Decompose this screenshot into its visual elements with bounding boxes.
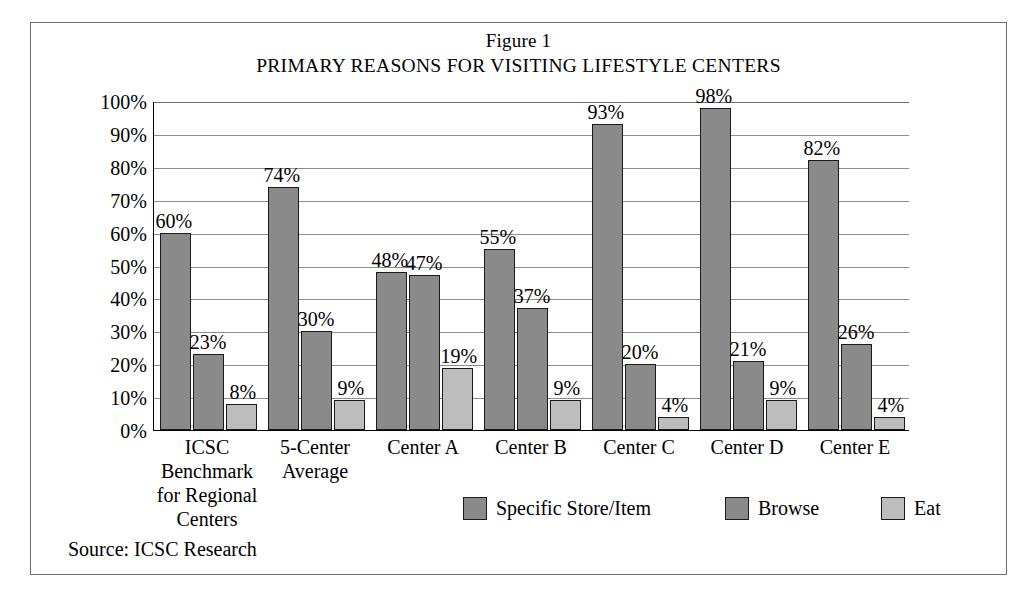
bar-value-label: 23% <box>190 332 227 353</box>
legend-item[interactable]: Specific Store/Item <box>463 497 651 520</box>
bar[interactable]: 21% <box>733 361 764 430</box>
bar[interactable]: 37% <box>517 308 548 430</box>
y-axis-tick-label: 50% <box>71 257 147 277</box>
bar[interactable]: 20% <box>625 364 656 430</box>
bar[interactable]: 47% <box>409 275 440 430</box>
bar[interactable]: 23% <box>193 354 224 430</box>
bar[interactable]: 26% <box>841 344 872 430</box>
title-block: Figure 1 PRIMARY REASONS FOR VISITING LI… <box>31 29 1006 78</box>
bar[interactable]: 74% <box>268 187 299 430</box>
bar[interactable]: 98% <box>700 108 731 430</box>
bar[interactable]: 4% <box>874 417 905 430</box>
figure-title: PRIMARY REASONS FOR VISITING LIFESTYLE C… <box>31 53 1006 78</box>
x-axis-category-label: ICSC Benchmark for Regional Centers <box>153 435 261 531</box>
plot-area: 60%23%8%74%30%9%48%47%19%55%37%9%93%20%4… <box>153 102 909 431</box>
legend-item[interactable]: Browse <box>725 497 819 520</box>
bar[interactable]: 55% <box>484 249 515 430</box>
legend-label: Browse <box>758 497 819 519</box>
bar-value-label: 48% <box>371 250 408 271</box>
bar-value-label: 93% <box>587 102 624 123</box>
bar[interactable]: 93% <box>592 124 623 430</box>
figure-frame: Figure 1 PRIMARY REASONS FOR VISITING LI… <box>30 22 1007 575</box>
bar-value-label: 19% <box>440 346 477 367</box>
x-axis-category-label: Center C <box>585 435 693 459</box>
bar-group: 98%21%9% <box>694 102 802 430</box>
bar-group: 48%47%19% <box>370 102 478 430</box>
y-axis-tick-label: 80% <box>71 158 147 178</box>
y-axis-tick-label: 30% <box>71 322 147 342</box>
bar-value-label: 4% <box>877 395 904 416</box>
bar-value-label: 74% <box>263 165 300 186</box>
bar[interactable]: 9% <box>334 400 365 430</box>
bar-group: 93%20%4% <box>586 102 694 430</box>
y-axis-tick-label: 90% <box>71 125 147 145</box>
bar-value-label: 55% <box>479 227 516 248</box>
x-axis-category-label: Center D <box>693 435 801 459</box>
x-axis-category-label: Center E <box>801 435 909 459</box>
y-axis-tick-label: 20% <box>71 355 147 375</box>
bar-value-label: 37% <box>514 286 551 307</box>
legend-item[interactable]: Eat <box>881 497 941 520</box>
bar-group: 55%37%9% <box>478 102 586 430</box>
bar[interactable]: 30% <box>301 331 332 430</box>
bar-value-label: 47% <box>406 253 443 274</box>
bar-value-label: 4% <box>661 395 688 416</box>
bar-value-label: 60% <box>155 211 192 232</box>
y-axis-tick-label: 0% <box>71 421 147 441</box>
bar[interactable]: 9% <box>766 400 797 430</box>
legend-label: Eat <box>914 497 941 519</box>
bar-group: 82%26%4% <box>802 102 910 430</box>
x-axis-category-label: 5-Center Average <box>261 435 369 483</box>
y-axis-tick-label: 100% <box>71 92 147 112</box>
chart-legend: Specific Store/ItemBrowseEat <box>463 493 941 523</box>
legend-swatch <box>463 497 487 520</box>
bar[interactable]: 82% <box>808 160 839 430</box>
bar[interactable]: 8% <box>226 404 257 430</box>
bars-layer: 60%23%8%74%30%9%48%47%19%55%37%9%93%20%4… <box>154 102 909 430</box>
legend-swatch <box>881 497 905 520</box>
bar-group: 60%23%8% <box>154 102 262 430</box>
y-axis-tick-label: 70% <box>71 191 147 211</box>
bar-value-label: 9% <box>769 378 796 399</box>
legend-label: Specific Store/Item <box>496 497 651 519</box>
bar[interactable]: 60% <box>160 233 191 430</box>
y-axis-labels: 100%90%80%70%60%50%40%30%20%10%0% <box>71 102 147 431</box>
bar[interactable]: 9% <box>550 400 581 430</box>
bar[interactable]: 19% <box>442 368 473 431</box>
bar[interactable]: 48% <box>376 272 407 430</box>
y-axis-tick-label: 60% <box>71 224 147 244</box>
x-axis-category-label: Center B <box>477 435 585 459</box>
bar-group: 74%30%9% <box>262 102 370 430</box>
bar-value-label: 20% <box>622 342 659 363</box>
bar-value-label: 9% <box>337 378 364 399</box>
bar-value-label: 30% <box>298 309 335 330</box>
source-note: Source: ICSC Research <box>68 537 257 561</box>
bar[interactable]: 4% <box>658 417 689 430</box>
bar-value-label: 8% <box>229 382 256 403</box>
y-axis-tick-label: 10% <box>71 388 147 408</box>
x-axis-category-label: Center A <box>369 435 477 459</box>
bar-value-label: 82% <box>803 138 840 159</box>
y-axis-tick-label: 40% <box>71 289 147 309</box>
bar-value-label: 26% <box>838 322 875 343</box>
figure-number: Figure 1 <box>31 29 1006 53</box>
legend-swatch <box>725 497 749 520</box>
bar-value-label: 98% <box>695 86 732 107</box>
bar-value-label: 21% <box>730 339 767 360</box>
bar-value-label: 9% <box>553 378 580 399</box>
